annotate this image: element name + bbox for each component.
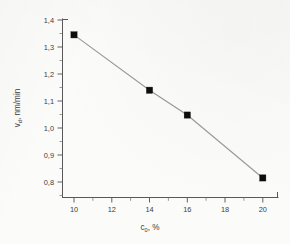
x-tick-label: 20	[259, 205, 267, 214]
svg-text:vd, nm/min: vd, nm/min	[13, 88, 23, 127]
series-line	[74, 35, 263, 178]
y-axis-major-ticks	[58, 20, 63, 182]
svg-text:c0, %: c0, %	[140, 223, 159, 233]
x-tick-label: 12	[108, 205, 116, 214]
x-axis-tick-labels: 10 12 14 16 18 20	[70, 205, 267, 214]
data-point-marker[interactable]	[146, 87, 152, 93]
x-tick-label: 10	[70, 205, 78, 214]
y-tick-label: 0,8	[44, 178, 54, 187]
y-tick-label: 1,2	[44, 70, 54, 79]
x-axis-title-tail: , %	[148, 223, 160, 232]
data-point-marker[interactable]	[260, 175, 266, 181]
x-tick-label: 16	[183, 205, 191, 214]
x-tick-label: 14	[145, 205, 153, 214]
x-axis-title: c0, %	[140, 223, 159, 233]
data-point-marker[interactable]	[184, 112, 190, 118]
y-tick-label: 1,4	[44, 16, 54, 25]
line-chart-plot: 1,4 1,3 1,2 1,1 1,0 0,9 0,8 10	[0, 0, 290, 244]
data-point-marker[interactable]	[71, 32, 77, 38]
y-axis-tick-labels: 1,4 1,3 1,2 1,1 1,0 0,9 0,8	[44, 16, 54, 187]
y-tick-label: 1,0	[44, 124, 54, 133]
y-tick-label: 0,9	[44, 151, 54, 160]
y-axis-title-tail: , nm/min	[13, 88, 22, 120]
chart-figure: 1,4 1,3 1,2 1,1 1,0 0,9 0,8 10	[0, 0, 290, 244]
y-axis-title: vd, nm/min	[13, 88, 23, 127]
x-tick-label: 18	[221, 205, 229, 214]
data-series	[71, 32, 266, 181]
y-tick-label: 1,3	[44, 43, 54, 52]
y-tick-label: 1,1	[44, 97, 54, 106]
